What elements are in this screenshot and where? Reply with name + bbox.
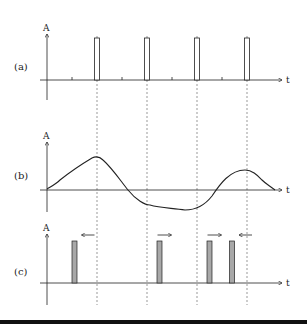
position-modulated-pulse bbox=[72, 241, 77, 283]
panel-b-t-label: t bbox=[286, 185, 290, 195]
panel-c: (c) A t bbox=[14, 223, 290, 305]
panel-a-y-label: A bbox=[42, 23, 50, 33]
analog-signal-curve bbox=[47, 157, 275, 210]
position-modulated-pulse bbox=[230, 241, 235, 283]
panel-a-label: (a) bbox=[14, 61, 28, 72]
panel-b: (b) A t bbox=[14, 131, 290, 212]
panel-c-label: (c) bbox=[14, 266, 28, 277]
panel-a-t-label: t bbox=[286, 75, 290, 85]
bottom-rule bbox=[0, 320, 307, 324]
panel-a: (a) A t bbox=[14, 23, 290, 100]
dashed-guide-lines bbox=[97, 36, 247, 305]
panel-c-y-label: A bbox=[42, 223, 50, 233]
panel-c-t-label: t bbox=[286, 278, 290, 288]
position-modulated-pulse bbox=[157, 241, 162, 283]
position-modulated-pulse bbox=[207, 241, 212, 283]
sampling-pulse bbox=[195, 38, 200, 80]
sampling-pulse bbox=[95, 38, 100, 80]
pulse-modulation-diagram: (a) A t (b) A t (c) A t bbox=[0, 0, 307, 327]
sampling-pulse bbox=[245, 38, 250, 80]
panel-b-label: (b) bbox=[14, 170, 28, 181]
panel-b-y-label: A bbox=[42, 131, 50, 141]
sampling-pulse bbox=[145, 38, 150, 80]
